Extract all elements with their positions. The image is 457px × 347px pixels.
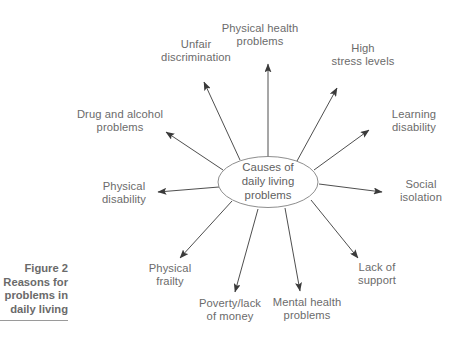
node-label-poverty-lack-of-money: Poverty/lack of money (184, 297, 276, 324)
caption-line: Reasons for (0, 276, 68, 290)
arrow-to-lack-of-support (311, 200, 358, 258)
arrow-to-unfair-discrimination (204, 82, 240, 160)
center-node-label: Causes of daily living problems (213, 160, 323, 202)
node-label-drug-and-alcohol-problems: Drug and alcohol problems (70, 108, 170, 135)
figure-container: Causes of daily living problems Physical… (0, 0, 457, 347)
node-label-physical-disability: Physical disability (88, 180, 160, 207)
arrow-to-physical-disability (158, 187, 219, 192)
caption-line: Figure 2 (0, 262, 68, 276)
arrow-to-poverty-lack-of-money (235, 209, 258, 292)
caption-line: problems in (0, 289, 68, 303)
caption-line: daily living (0, 303, 68, 317)
caption-divider (0, 320, 68, 321)
arrow-to-social-isolation (319, 184, 382, 192)
figure-caption: Figure 2 Reasons for problems in daily l… (0, 262, 68, 316)
arrow-to-physical-frailty (180, 201, 232, 258)
arrow-to-high-stress-levels (297, 88, 337, 161)
node-label-learning-disability: Learning disability (372, 108, 456, 135)
node-label-physical-frailty: Physical frailty (130, 262, 210, 289)
arrow-to-mental-health-problems (285, 208, 300, 291)
node-label-lack-of-support: Lack of support (337, 261, 417, 288)
node-label-high-stress-levels: High stress levels (318, 42, 408, 69)
node-label-social-isolation: Social isolation (385, 178, 457, 205)
node-label-unfair-discrimination: Unfair discrimination (150, 38, 242, 65)
